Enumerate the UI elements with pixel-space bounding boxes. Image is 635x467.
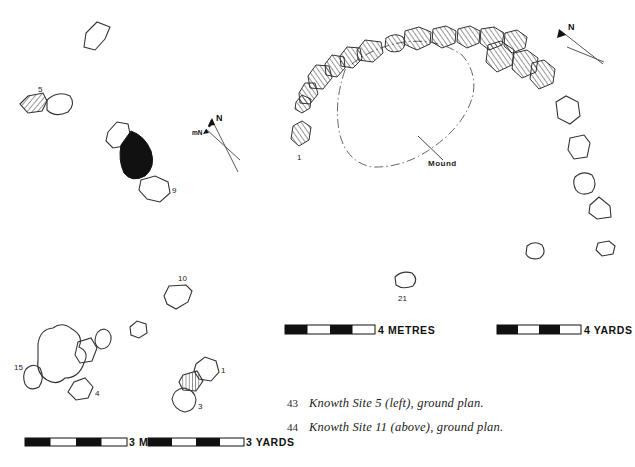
- north-label-right: N: [568, 22, 575, 32]
- north-label-left: N: [216, 113, 223, 123]
- stone-label-5: 5: [38, 85, 43, 94]
- stone-label-15: 15: [14, 363, 23, 372]
- stone-label-3: 3: [198, 402, 203, 411]
- caption-row: 43 Knowth Site 5 (left), ground plan.: [287, 396, 632, 411]
- figure-captions: 43 Knowth Site 5 (left), ground plan. 44…: [287, 396, 632, 444]
- caption-number: 44: [287, 421, 309, 433]
- caption-text: Knowth Site 11 (above), ground plan.: [309, 420, 503, 435]
- stone-label-1-left: 1: [221, 366, 226, 375]
- scale-bar-3-yards: 3 YARDS: [148, 436, 295, 448]
- stone-label-21: 21: [398, 294, 407, 303]
- stone-label-10: 10: [178, 274, 187, 283]
- mound-label: Mound: [428, 159, 457, 168]
- caption-number: 43: [287, 397, 309, 409]
- scale-bar-4-yards: 4 YARDS: [497, 324, 633, 336]
- scale-label-4-metres: 4 METRES: [378, 324, 435, 336]
- stone-label-4: 4: [95, 389, 100, 398]
- magnetic-north-label-left: mN: [192, 129, 203, 136]
- stone-label-9: 9: [172, 186, 177, 195]
- stone-label-1-right: 1: [297, 153, 302, 162]
- scale-bar-4-metres: 4 METRES: [285, 324, 435, 336]
- caption-row: 44 Knowth Site 11 (above), ground plan.: [287, 420, 632, 435]
- caption-text: Knowth Site 5 (left), ground plan.: [309, 396, 484, 411]
- scale-label-4-yards: 4 YARDS: [584, 324, 633, 336]
